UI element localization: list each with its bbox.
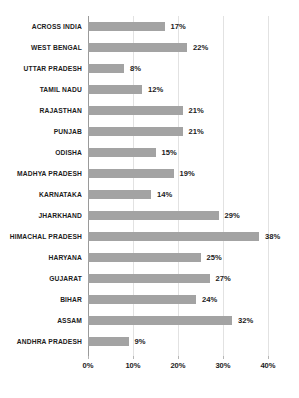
category-label: ACROSS INDIA xyxy=(6,16,82,37)
bar xyxy=(88,43,187,52)
category-label: RAJASTHAN xyxy=(6,100,82,121)
bar xyxy=(88,274,210,283)
bar-track: 29% xyxy=(88,205,299,226)
bar-row: GUJARAT27% xyxy=(0,268,299,289)
bar xyxy=(88,316,232,325)
bar-track: 27% xyxy=(88,268,299,289)
bar-chart: ACROSS INDIA17%WEST BENGAL22%UTTAR PRADE… xyxy=(0,0,299,398)
bar-track: 15% xyxy=(88,142,299,163)
category-label: BIHAR xyxy=(6,289,82,310)
x-tick-label: 20% xyxy=(170,361,185,370)
category-label: HARYANA xyxy=(6,247,82,268)
bar-value-label: 25% xyxy=(207,247,222,268)
x-tick xyxy=(88,356,89,359)
bar-value-label: 14% xyxy=(157,184,172,205)
bar xyxy=(88,106,183,115)
bar xyxy=(88,169,174,178)
bar-row: ACROSS INDIA17% xyxy=(0,16,299,37)
bar-row: PUNJAB21% xyxy=(0,121,299,142)
bar-track: 9% xyxy=(88,331,299,352)
x-tick xyxy=(178,356,179,359)
x-tick xyxy=(268,356,269,359)
bar-value-label: 19% xyxy=(180,163,195,184)
bar-row: KARNATAKA14% xyxy=(0,184,299,205)
category-label: MADHYA PRADESH xyxy=(6,163,82,184)
bar-row: JHARKHAND29% xyxy=(0,205,299,226)
bar-track: 22% xyxy=(88,37,299,58)
bar-value-label: 29% xyxy=(225,205,240,226)
bar-track: 19% xyxy=(88,163,299,184)
bar-value-label: 22% xyxy=(193,37,208,58)
bar-value-label: 21% xyxy=(189,100,204,121)
category-label: TAMIL NADU xyxy=(6,79,82,100)
bar-value-label: 9% xyxy=(135,331,146,352)
bar-track: 24% xyxy=(88,289,299,310)
bar xyxy=(88,253,201,262)
bar xyxy=(88,295,196,304)
bar-row: UTTAR PRADESH8% xyxy=(0,58,299,79)
bar xyxy=(88,22,165,31)
category-label: ASSAM xyxy=(6,310,82,331)
bar-track: 14% xyxy=(88,184,299,205)
x-tick-label: 10% xyxy=(125,361,140,370)
category-label: KARNATAKA xyxy=(6,184,82,205)
bar-value-label: 27% xyxy=(216,268,231,289)
x-tick xyxy=(133,356,134,359)
bar xyxy=(88,148,156,157)
category-label: WEST BENGAL xyxy=(6,37,82,58)
bar-row: HIMACHAL PRADESH38% xyxy=(0,226,299,247)
category-label: JHARKHAND xyxy=(6,205,82,226)
bar-track: 8% xyxy=(88,58,299,79)
bar-value-label: 38% xyxy=(265,226,280,247)
category-label: GUJARAT xyxy=(6,268,82,289)
bar-track: 32% xyxy=(88,310,299,331)
bar-value-label: 21% xyxy=(189,121,204,142)
bar-track: 25% xyxy=(88,247,299,268)
bar-row: ASSAM32% xyxy=(0,310,299,331)
bar-row: MADHYA PRADESH19% xyxy=(0,163,299,184)
bar-row: BIHAR24% xyxy=(0,289,299,310)
bar-track: 21% xyxy=(88,100,299,121)
bar-row: TAMIL NADU12% xyxy=(0,79,299,100)
bar-value-label: 32% xyxy=(238,310,253,331)
bar-track: 21% xyxy=(88,121,299,142)
bar xyxy=(88,211,219,220)
bar-track: 38% xyxy=(88,226,299,247)
bar xyxy=(88,232,259,241)
category-label: HIMACHAL PRADESH xyxy=(6,226,82,247)
x-tick-label: 0% xyxy=(83,361,94,370)
x-tick xyxy=(223,356,224,359)
bar-value-label: 17% xyxy=(171,16,186,37)
bar xyxy=(88,337,129,346)
x-tick-label: 40% xyxy=(260,361,275,370)
bar-rows: ACROSS INDIA17%WEST BENGAL22%UTTAR PRADE… xyxy=(0,16,299,352)
bar-row: WEST BENGAL22% xyxy=(0,37,299,58)
bar-track: 17% xyxy=(88,16,299,37)
category-label: UTTAR PRADESH xyxy=(6,58,82,79)
bar xyxy=(88,85,142,94)
bar-value-label: 15% xyxy=(162,142,177,163)
bar-value-label: 24% xyxy=(202,289,217,310)
bar-row: ODISHA15% xyxy=(0,142,299,163)
bar-value-label: 12% xyxy=(148,79,163,100)
bar-row: ANDHRA PRADESH9% xyxy=(0,331,299,352)
bar-value-label: 8% xyxy=(130,58,141,79)
bar xyxy=(88,127,183,136)
category-label: ODISHA xyxy=(6,142,82,163)
bar-row: HARYANA25% xyxy=(0,247,299,268)
bar-row: RAJASTHAN21% xyxy=(0,100,299,121)
bar xyxy=(88,64,124,73)
x-axis: 0%10%20%30%40% xyxy=(0,356,299,376)
x-tick-label: 30% xyxy=(215,361,230,370)
bar xyxy=(88,190,151,199)
category-label: PUNJAB xyxy=(6,121,82,142)
bar-track: 12% xyxy=(88,79,299,100)
category-label: ANDHRA PRADESH xyxy=(6,331,82,352)
